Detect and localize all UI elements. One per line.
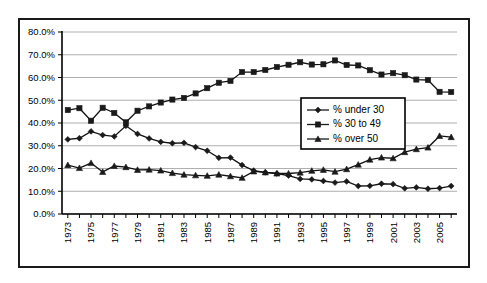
x-tick-label: 2001 bbox=[388, 222, 399, 243]
data-point bbox=[309, 177, 315, 183]
x-tick-label: 2005 bbox=[434, 222, 445, 243]
data-point bbox=[320, 178, 326, 184]
data-point bbox=[263, 67, 268, 72]
x-tick-label: 1985 bbox=[202, 222, 213, 243]
data-point bbox=[205, 86, 210, 91]
x-tick-label: 1999 bbox=[364, 222, 375, 243]
data-point bbox=[181, 140, 187, 146]
data-point bbox=[413, 184, 419, 190]
data-point bbox=[437, 185, 443, 191]
x-tick-label: 1997 bbox=[341, 222, 352, 243]
data-point bbox=[274, 64, 279, 69]
y-tick-label: 10.0% bbox=[28, 186, 55, 197]
data-point bbox=[402, 185, 408, 191]
data-point bbox=[425, 77, 430, 82]
data-point bbox=[355, 183, 361, 189]
x-tick-label: 1993 bbox=[295, 222, 306, 243]
data-point bbox=[251, 69, 256, 74]
data-point bbox=[425, 186, 431, 192]
data-point bbox=[332, 58, 337, 63]
y-tick-label: 40.0% bbox=[28, 117, 55, 128]
legend-label: % under 30 bbox=[333, 104, 385, 115]
data-point bbox=[390, 181, 396, 187]
data-point bbox=[448, 183, 454, 189]
y-axis: 0.0%10.0%20.0%30.0%40.0%50.0%60.0%70.0%8… bbox=[28, 26, 62, 219]
data-point bbox=[367, 183, 373, 189]
chart-frame: 0.0%10.0%20.0%30.0%40.0%50.0%60.0%70.0%8… bbox=[18, 18, 470, 268]
data-point bbox=[100, 132, 106, 138]
data-point bbox=[379, 181, 385, 187]
data-point bbox=[414, 77, 419, 82]
data-point bbox=[193, 144, 199, 150]
data-point bbox=[193, 91, 198, 96]
x-tick-label: 1977 bbox=[109, 222, 120, 243]
data-point bbox=[298, 60, 303, 65]
data-point bbox=[216, 155, 222, 161]
x-tick-label: 1987 bbox=[225, 222, 236, 243]
data-point bbox=[112, 110, 117, 115]
legend-label: % over 50 bbox=[333, 133, 378, 144]
y-tick-label: 60.0% bbox=[28, 72, 55, 83]
data-point bbox=[158, 100, 163, 105]
data-point bbox=[344, 62, 349, 67]
chart-legend: % under 30% 30 to 49% over 50 bbox=[301, 98, 405, 149]
data-point bbox=[88, 118, 93, 123]
data-point bbox=[228, 78, 233, 83]
data-point bbox=[65, 107, 70, 112]
data-point bbox=[204, 148, 210, 154]
data-point bbox=[379, 72, 384, 77]
data-point bbox=[170, 97, 175, 102]
x-tick-label: 1995 bbox=[318, 222, 329, 243]
legend-label: % 30 to 49 bbox=[333, 118, 381, 129]
x-tick-label: 1975 bbox=[85, 222, 96, 243]
line-chart: 0.0%10.0%20.0%30.0%40.0%50.0%60.0%70.0%8… bbox=[20, 20, 468, 266]
y-tick-label: 80.0% bbox=[28, 26, 55, 37]
y-tick-label: 0.0% bbox=[33, 208, 55, 219]
y-tick-label: 50.0% bbox=[28, 95, 55, 106]
data-point bbox=[239, 69, 244, 74]
data-point bbox=[286, 62, 291, 67]
y-tick-label: 30.0% bbox=[28, 140, 55, 151]
data-point bbox=[123, 120, 128, 125]
data-point bbox=[77, 106, 82, 111]
data-point bbox=[309, 62, 314, 67]
data-point bbox=[65, 136, 71, 142]
legend-swatch-marker bbox=[315, 122, 320, 127]
data-point bbox=[216, 80, 221, 85]
data-point bbox=[402, 73, 407, 78]
data-point bbox=[297, 176, 303, 182]
data-point bbox=[100, 105, 105, 110]
x-tick-label: 1973 bbox=[62, 222, 73, 243]
data-point bbox=[65, 162, 71, 168]
data-point bbox=[158, 139, 164, 145]
data-point bbox=[437, 89, 442, 94]
x-tick-label: 1989 bbox=[248, 222, 259, 243]
data-point bbox=[449, 89, 454, 94]
x-tick-label: 1991 bbox=[271, 222, 282, 243]
x-tick-label: 1983 bbox=[178, 222, 189, 243]
data-point bbox=[77, 135, 83, 141]
data-point bbox=[321, 62, 326, 67]
y-tick-label: 20.0% bbox=[28, 163, 55, 174]
data-point bbox=[344, 179, 350, 185]
data-point bbox=[169, 140, 175, 146]
data-point bbox=[135, 108, 140, 113]
x-axis: 1973197519771979198119831985198719891991… bbox=[62, 214, 457, 243]
data-point bbox=[391, 71, 396, 76]
data-point bbox=[88, 160, 94, 166]
data-point bbox=[367, 68, 372, 73]
data-point bbox=[356, 63, 361, 68]
data-point bbox=[181, 95, 186, 100]
x-tick-label: 2003 bbox=[411, 222, 422, 243]
data-point bbox=[146, 136, 152, 142]
data-point bbox=[147, 104, 152, 109]
data-point bbox=[332, 180, 338, 186]
x-tick-label: 1979 bbox=[132, 222, 143, 243]
x-tick-label: 1981 bbox=[155, 222, 166, 243]
y-tick-label: 70.0% bbox=[28, 49, 55, 60]
data-point bbox=[88, 129, 94, 135]
